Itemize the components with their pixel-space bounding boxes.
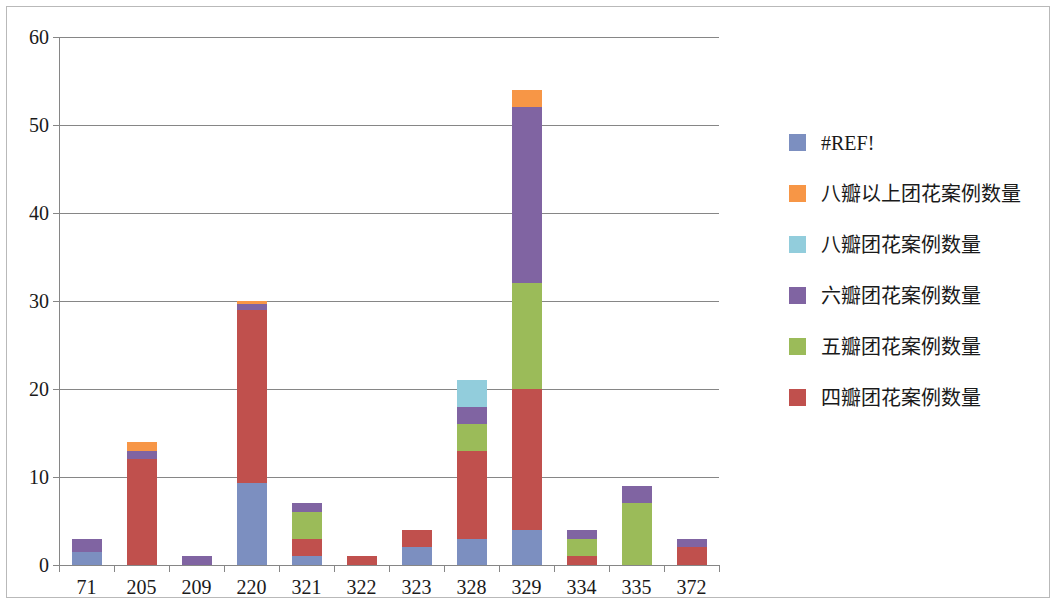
gridline (59, 213, 719, 214)
x-axis-tick-label: 209 (182, 577, 212, 597)
chart-legend: #REF!八瓣以上团花案例数量八瓣团花案例数量六瓣团花案例数量五瓣团花案例数量四… (789, 117, 1039, 423)
y-axis-tick-label: 50 (29, 115, 49, 135)
bar-segment[interactable] (512, 389, 542, 530)
bar-stack[interactable] (402, 37, 432, 565)
bar-stack[interactable] (567, 37, 597, 565)
y-axis-tick (53, 477, 59, 478)
y-axis-tick-label: 0 (39, 555, 49, 575)
plot-area: 0102030405060 71205209220321322323328329… (59, 37, 719, 565)
bar-segment[interactable] (292, 556, 322, 565)
x-axis-tick-label: 71 (77, 577, 97, 597)
y-axis-tick-label: 30 (29, 291, 49, 311)
bar-segment[interactable] (237, 310, 267, 483)
legend-item[interactable]: 五瓣团花案例数量 (789, 321, 1039, 372)
chart-frame: 0102030405060 71205209220321322323328329… (6, 6, 1050, 598)
y-axis-tick (53, 301, 59, 302)
bar-stack[interactable] (292, 37, 322, 565)
x-axis-tick-label: 220 (237, 577, 267, 597)
x-axis-line (59, 565, 719, 566)
gridline (59, 37, 719, 38)
bar-segment[interactable] (677, 547, 707, 565)
x-axis-tick (444, 565, 445, 572)
bar-stack[interactable] (622, 37, 652, 565)
bar-stack[interactable] (512, 37, 542, 565)
bar-segment[interactable] (182, 556, 212, 565)
bar-segment[interactable] (457, 380, 487, 406)
legend-item[interactable]: 四瓣团花案例数量 (789, 372, 1039, 423)
x-axis-tick-label: 329 (512, 577, 542, 597)
bar-segment[interactable] (457, 407, 487, 425)
bar-segment[interactable] (292, 503, 322, 512)
bar-segment[interactable] (347, 556, 377, 565)
legend-item-label: 五瓣团花案例数量 (821, 337, 981, 357)
bar-segment[interactable] (72, 552, 102, 565)
bar-stack[interactable] (72, 37, 102, 565)
bar-stack[interactable] (677, 37, 707, 565)
bar-segment[interactable] (457, 539, 487, 565)
x-axis-tick-label: 372 (677, 577, 707, 597)
legend-item[interactable]: 八瓣以上团花案例数量 (789, 168, 1039, 219)
bar-segment[interactable] (567, 539, 597, 557)
x-axis-tick (224, 565, 225, 572)
bar-segment[interactable] (237, 304, 267, 310)
x-axis-tick-label: 321 (292, 577, 322, 597)
legend-color-swatch-icon (789, 236, 806, 253)
x-axis-tick (554, 565, 555, 572)
legend-item-label: #REF! (821, 133, 874, 153)
x-axis-tick (664, 565, 665, 572)
bar-segment[interactable] (127, 451, 157, 460)
bar-segment[interactable] (127, 459, 157, 565)
bar-segment[interactable] (622, 503, 652, 565)
legend-color-swatch-icon (789, 338, 806, 355)
bar-stack[interactable] (457, 37, 487, 565)
y-axis-tick (53, 37, 59, 38)
x-axis-tick (59, 565, 60, 572)
bar-stack[interactable] (347, 37, 377, 565)
bar-segment[interactable] (72, 539, 102, 552)
y-axis-tick (53, 389, 59, 390)
bar-segment[interactable] (512, 283, 542, 389)
legend-color-swatch-icon (789, 185, 806, 202)
gridline (59, 477, 719, 478)
bar-segment[interactable] (457, 424, 487, 450)
legend-item[interactable]: #REF! (789, 117, 1039, 168)
legend-item-label: 八瓣团花案例数量 (821, 235, 981, 255)
x-axis-tick-label: 334 (567, 577, 597, 597)
bar-stack[interactable] (127, 37, 157, 565)
bar-segment[interactable] (402, 530, 432, 548)
legend-item[interactable]: 八瓣团花案例数量 (789, 219, 1039, 270)
x-axis-tick (719, 565, 720, 572)
bar-segment[interactable] (457, 451, 487, 539)
bar-segment[interactable] (512, 107, 542, 283)
bar-segment[interactable] (567, 530, 597, 539)
legend-item-label: 八瓣以上团花案例数量 (821, 184, 1021, 204)
bar-stack[interactable] (182, 37, 212, 565)
bar-stack[interactable] (237, 37, 267, 565)
bar-segment[interactable] (292, 539, 322, 557)
x-axis-tick (609, 565, 610, 572)
x-axis-tick-label: 205 (127, 577, 157, 597)
x-axis-tick (499, 565, 500, 572)
plot-wrapper: 0102030405060 71205209220321322323328329… (7, 7, 767, 599)
x-axis-tick (389, 565, 390, 572)
y-axis-tick (53, 213, 59, 214)
bar-segment[interactable] (237, 483, 267, 565)
y-axis-tick-label: 60 (29, 27, 49, 47)
bar-segment[interactable] (677, 539, 707, 548)
bar-segment[interactable] (567, 556, 597, 565)
x-axis-tick (279, 565, 280, 572)
gridline (59, 301, 719, 302)
bar-segment[interactable] (292, 512, 322, 538)
legend-color-swatch-icon (789, 134, 806, 151)
bar-segment[interactable] (237, 301, 267, 304)
legend-item-label: 四瓣团花案例数量 (821, 388, 981, 408)
bar-segment[interactable] (512, 90, 542, 108)
legend-item[interactable]: 六瓣团花案例数量 (789, 270, 1039, 321)
bar-segment[interactable] (622, 486, 652, 504)
bar-segment[interactable] (402, 547, 432, 565)
x-axis-tick-label: 323 (402, 577, 432, 597)
legend-color-swatch-icon (789, 389, 806, 406)
bar-segment[interactable] (127, 442, 157, 451)
bar-segment[interactable] (512, 530, 542, 565)
x-axis-tick-label: 335 (622, 577, 652, 597)
